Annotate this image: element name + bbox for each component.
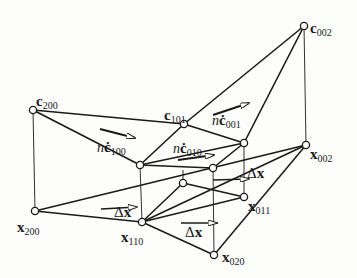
label-x200: x200: [17, 219, 40, 237]
node-x101: [179, 179, 186, 186]
node-c011: [240, 139, 247, 146]
label-dx1: Δx: [114, 205, 131, 220]
label-x011: x011: [248, 198, 270, 216]
arrow-nc100: [100, 129, 135, 138]
bezier-triangle-diagram: c200 c101 c002 nċ100 nċ010 nċ001 Δx Δx Δ…: [0, 0, 357, 278]
label-c101: c101: [164, 107, 186, 125]
label-nc010: nċ010: [173, 140, 202, 158]
nodes: [29, 22, 309, 258]
label-dx3: Δx: [247, 166, 264, 181]
node-x002: [302, 141, 309, 148]
vertical-connectors: [33, 26, 306, 255]
label-nc100: nċ100: [97, 139, 126, 157]
label-x020: x020: [222, 249, 245, 267]
node-c020: [209, 164, 216, 171]
node-x020: [210, 251, 217, 258]
node-c002: [300, 22, 307, 29]
label-dx2: Δx: [185, 225, 202, 240]
node-c110: [136, 161, 143, 168]
label-x110: x110: [121, 229, 143, 247]
control-net: [33, 26, 304, 168]
diagram-svg: [0, 0, 357, 278]
node-x110: [138, 218, 145, 225]
label-x002: x002: [310, 146, 333, 164]
label-c200: c200: [36, 93, 58, 111]
arrow-dx3: [213, 179, 249, 180]
node-x011: [240, 193, 247, 200]
label-c002: c002: [310, 20, 332, 38]
label-nc001: nċ001: [212, 112, 241, 130]
node-x200: [31, 207, 38, 214]
